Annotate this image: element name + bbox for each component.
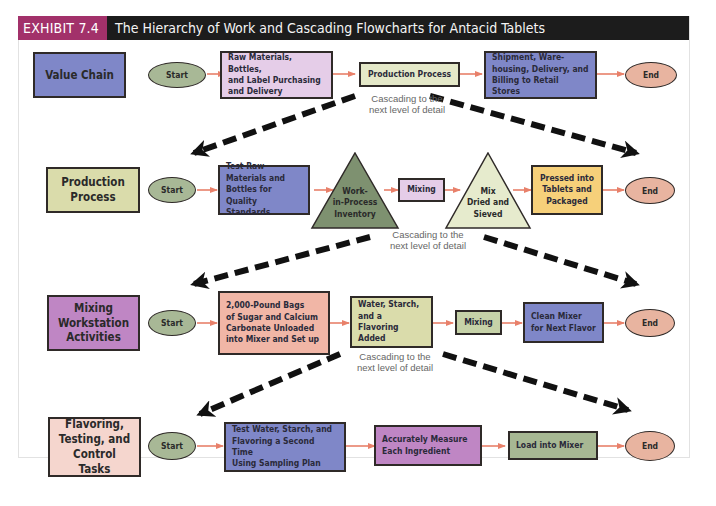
step-line: Water, Starch, [358, 299, 425, 310]
cascade-line: Cascading to the [352, 93, 462, 104]
label-line: Flavoring, [56, 417, 133, 432]
level-label-text: Flavoring, Testing, and Control Tasks [56, 417, 133, 477]
step-line: Packaged [540, 196, 594, 207]
step-line: and Delivery [228, 86, 325, 97]
step-production-process: Production Process [359, 62, 460, 87]
step-text: Mixing [464, 317, 493, 328]
step-line: Raw Materials, Bottles, [228, 52, 325, 75]
label-line: Control Tasks [56, 447, 133, 477]
step-line: Carbonate Unloaded [226, 323, 319, 334]
step-text: Pressed into Tablets and Packaged [540, 173, 594, 207]
step-line: Billing to Retail Stores [492, 75, 589, 98]
step-line: Each Ingredient [382, 446, 467, 457]
step-shipment: Shipment, Ware- housing, Delivery, and B… [484, 51, 597, 99]
step-mixing: Mixing [455, 310, 502, 335]
step-pressed-tablets: Pressed into Tablets and Packaged [531, 165, 603, 215]
step-raw-materials: Raw Materials, Bottles, and Label Purcha… [220, 51, 333, 99]
end-node: End [625, 62, 677, 88]
end-label: End [642, 186, 658, 196]
start-label: Start [161, 185, 183, 195]
step-text: Raw Materials, Bottles, and Label Purcha… [228, 52, 325, 98]
cascade-line: next level of detail [352, 104, 462, 115]
triangle-line: in-Process [310, 197, 400, 208]
triangle-text: Work- in-Process Inventory [310, 186, 400, 220]
start-label: Start [161, 441, 183, 451]
step-line: Tablets and [540, 184, 594, 195]
start-node: Start [148, 177, 196, 203]
label-line: Process [61, 190, 125, 205]
step-line: and a Flavoring [358, 311, 425, 334]
cascade-line: next level of detail [340, 362, 450, 373]
step-clean-mixer: Clean Mixer for Next Flavor [523, 302, 604, 343]
step-test-water-starch: Test Water, Starch, and Flavoring a Seco… [224, 422, 346, 472]
step-line: Added [358, 333, 425, 344]
step-text: Load into Mixer [516, 440, 583, 451]
label-line: Testing, and [56, 432, 133, 447]
step-line: Quality Standards [226, 196, 302, 219]
step-test-raw-materials: Test Raw Materials and Bottles for Quali… [218, 165, 310, 215]
cascade-label: Cascading to the next level of detail [373, 229, 483, 252]
cascade-label: Cascading to the next level of detail [340, 351, 450, 374]
step-line: Pressed into [540, 173, 594, 184]
step-line: Shipment, Ware- [492, 52, 589, 63]
step-text: Clean Mixer for Next Flavor [531, 311, 596, 334]
step-line: Flavoring a Second Time [232, 436, 338, 459]
label-line: Activities [58, 330, 129, 345]
level-label-flavoring-testing: Flavoring, Testing, and Control Tasks [48, 417, 141, 477]
triangle-line: Sieved [444, 209, 532, 220]
start-node: Start [148, 432, 196, 460]
step-line: of Sugar and Calcium [226, 312, 319, 323]
triangle-line: Work- [310, 186, 400, 197]
step-text: Accurately Measure Each Ingredient [382, 434, 467, 457]
level-label-value-chain: Value Chain [33, 52, 126, 98]
step-line: Using Sampling Plan [232, 458, 338, 469]
triangle-line: Mix [444, 186, 532, 197]
step-line: Materials and [226, 173, 302, 184]
start-node: Start [148, 310, 196, 336]
step-line: Clean Mixer [531, 311, 596, 322]
level-label-text: Mixing Workstation Activities [58, 301, 129, 346]
level-label-text: Production Process [61, 175, 125, 205]
step-line: Bottles for [226, 184, 302, 195]
step-line: Test Raw [226, 161, 302, 172]
step-text: Test Raw Materials and Bottles for Quali… [226, 161, 302, 218]
label-line: Workstation [58, 316, 129, 331]
step-load-mixer: Load into Mixer [508, 431, 598, 460]
exhibit-title: The Hierarchy of Work and Cascading Flow… [107, 20, 545, 36]
step-line: and Label Purchasing [228, 75, 325, 86]
end-node: End [625, 177, 675, 204]
inventory-triangle-wip: Work- in-Process Inventory [310, 152, 400, 229]
step-line: housing, Delivery, and [492, 64, 589, 75]
exhibit-number: EXHIBIT 7.4 [18, 16, 107, 40]
step-line: Accurately Measure [382, 434, 467, 445]
start-label: Start [161, 318, 183, 328]
step-measure-ingredient: Accurately Measure Each Ingredient [374, 425, 482, 466]
triangle-text: Mix Dried and Sieved [444, 186, 532, 220]
start-label: Start [166, 70, 188, 80]
cascade-line: next level of detail [373, 240, 483, 251]
step-unload-bags: 2,000-Pound Bags of Sugar and Calcium Ca… [218, 291, 330, 355]
end-label: End [642, 441, 658, 451]
end-node: End [625, 431, 675, 461]
step-text: Production Process [368, 69, 451, 80]
step-text: Shipment, Ware- housing, Delivery, and B… [492, 52, 589, 98]
start-node: Start [148, 62, 206, 88]
step-text: Water, Starch, and a Flavoring Added [358, 299, 425, 345]
step-line: for Next Flavor [531, 323, 596, 334]
inventory-triangle-mix-dried: Mix Dried and Sieved [444, 152, 532, 229]
step-text: 2,000-Pound Bags of Sugar and Calcium Ca… [226, 300, 319, 346]
step-text: Mixing [407, 184, 436, 195]
step-line: into Mixer and Set up [226, 334, 319, 345]
step-line: Test Water, Starch, and [232, 424, 338, 435]
step-water-starch-flavor: Water, Starch, and a Flavoring Added [350, 296, 433, 348]
end-node: End [625, 309, 675, 337]
exhibit-header: EXHIBIT 7.4 The Hierarchy of Work and Ca… [18, 16, 689, 40]
triangle-line: Dried and [444, 197, 532, 208]
level-label-text: Value Chain [45, 68, 114, 83]
end-label: End [643, 70, 659, 80]
triangle-line: Inventory [310, 209, 400, 220]
level-label-production-process: Production Process [46, 167, 140, 213]
level-label-mixing-workstation: Mixing Workstation Activities [47, 295, 140, 351]
label-line: Production [61, 175, 125, 190]
cascade-label: Cascading to the next level of detail [352, 93, 462, 116]
